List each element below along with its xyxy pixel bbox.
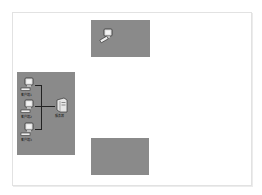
node-label: 服务器 xyxy=(55,115,64,118)
workstation-icon xyxy=(20,99,36,115)
network-zone-top xyxy=(91,20,150,57)
workstation-icon xyxy=(99,28,115,44)
server-icon xyxy=(53,97,69,113)
workstation-icon xyxy=(20,77,36,93)
node-label: 客户端3 xyxy=(21,139,32,142)
node-label: 客户端2 xyxy=(21,116,32,119)
connection-bus xyxy=(41,85,42,130)
node-label: 客户端1 xyxy=(21,94,32,97)
network-zone-bottom xyxy=(91,138,149,175)
network-zone-left: 客户端1 客户端2 客户端3 服务器 xyxy=(17,72,75,155)
workstation-icon xyxy=(20,122,36,138)
